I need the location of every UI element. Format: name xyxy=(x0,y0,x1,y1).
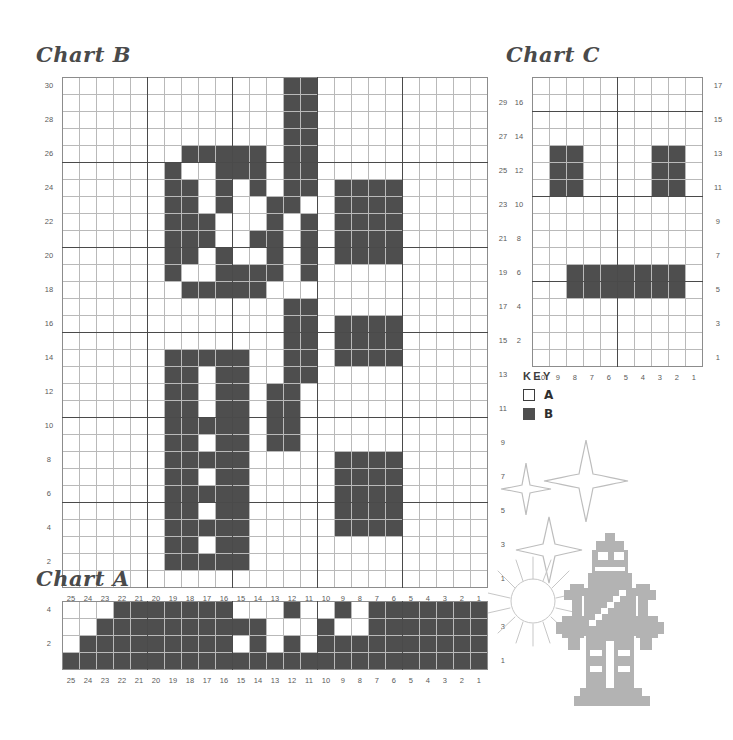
chart-cell xyxy=(550,95,566,111)
chart-cell xyxy=(114,231,130,247)
chart-cell xyxy=(114,316,130,332)
chart-cell xyxy=(352,452,368,468)
chart-cell xyxy=(131,129,147,145)
chart-cell xyxy=(199,282,215,298)
key-entry-b: B xyxy=(523,407,553,421)
chart-cell xyxy=(148,350,164,366)
chart-cell xyxy=(567,282,583,298)
chart-cell xyxy=(216,350,232,366)
chart-cell xyxy=(352,163,368,179)
chart-cell xyxy=(686,214,702,230)
chart-cell xyxy=(131,469,147,485)
chart-cell xyxy=(301,265,317,281)
chart-cell xyxy=(352,112,368,128)
chart-cell xyxy=(335,350,351,366)
chart-cell xyxy=(471,435,487,451)
chart-cell xyxy=(369,653,385,669)
chart-cell xyxy=(386,214,402,230)
chart-cell xyxy=(165,401,181,417)
chart-cell xyxy=(318,129,334,145)
chart-cell xyxy=(386,333,402,349)
chart-b-gridwrap: 2524232221201918171615141312111098765432… xyxy=(36,77,514,608)
chart-cell xyxy=(318,619,334,635)
chart-cell xyxy=(403,520,419,536)
chart-cell xyxy=(114,214,130,230)
chart-cell xyxy=(471,602,487,618)
chart-cell xyxy=(165,333,181,349)
chart-cell xyxy=(284,214,300,230)
chart-cell xyxy=(97,163,113,179)
chart-cell xyxy=(301,367,317,383)
chart-cell xyxy=(454,231,470,247)
chart-cell xyxy=(369,146,385,162)
chart-cell xyxy=(471,367,487,383)
chart-cell xyxy=(567,299,583,315)
chart-cell xyxy=(550,248,566,264)
chart-cell xyxy=(97,265,113,281)
chart-cell xyxy=(267,350,283,366)
chart-cell xyxy=(454,129,470,145)
chart-cell xyxy=(669,333,685,349)
chart-cell xyxy=(403,486,419,502)
y-axis-tick-label-right: 11 xyxy=(709,184,727,192)
chart-cell xyxy=(216,197,232,213)
chart-cell xyxy=(386,367,402,383)
chart-cell xyxy=(233,602,249,618)
chart-cell xyxy=(454,602,470,618)
chart-cell xyxy=(403,299,419,315)
chart-cell xyxy=(114,602,130,618)
chart-cell xyxy=(63,265,79,281)
chart-cell xyxy=(386,435,402,451)
chart-cell xyxy=(216,163,232,179)
chart-cell xyxy=(301,248,317,264)
chart-cell xyxy=(301,520,317,536)
chart-cell xyxy=(131,418,147,434)
chart-cell xyxy=(97,78,113,94)
chart-cell xyxy=(131,78,147,94)
chart-cell xyxy=(386,78,402,94)
x-axis-tick-label: 13 xyxy=(267,677,283,685)
chart-cell xyxy=(114,180,130,196)
chart-cell xyxy=(403,367,419,383)
chart-cell xyxy=(148,197,164,213)
chart-cell xyxy=(301,486,317,502)
chart-cell xyxy=(301,95,317,111)
chart-cell xyxy=(471,248,487,264)
chart-cell xyxy=(533,214,549,230)
chart-cell xyxy=(335,197,351,213)
y-axis-tick-label-right: 1 xyxy=(709,354,727,362)
chart-cell xyxy=(63,112,79,128)
chart-cell xyxy=(97,197,113,213)
chart-cell xyxy=(369,418,385,434)
chart-cell xyxy=(233,282,249,298)
chart-cell xyxy=(182,653,198,669)
chart-cell xyxy=(250,248,266,264)
chart-cell xyxy=(386,231,402,247)
chart-cell xyxy=(533,248,549,264)
chart-cell xyxy=(250,537,266,553)
chart-cell xyxy=(165,146,181,162)
chart-cell xyxy=(386,401,402,417)
chart-cell xyxy=(301,231,317,247)
chart-cell xyxy=(437,401,453,417)
chart-cell xyxy=(114,146,130,162)
chart-cell xyxy=(148,520,164,536)
chart-cell xyxy=(216,299,232,315)
chart-cell xyxy=(301,636,317,652)
chart-cell xyxy=(318,248,334,264)
chart-cell xyxy=(669,231,685,247)
chart-cell xyxy=(114,653,130,669)
chart-cell xyxy=(403,282,419,298)
chart-cell xyxy=(301,214,317,230)
chart-cell xyxy=(454,180,470,196)
chart-cell xyxy=(63,602,79,618)
chart-cell xyxy=(165,316,181,332)
y-axis-tick-label-right: 9 xyxy=(709,218,727,226)
x-axis-tick-label: 21 xyxy=(131,677,147,685)
chart-cell xyxy=(420,503,436,519)
chart-cell xyxy=(233,231,249,247)
chart-cell xyxy=(652,265,668,281)
chart-cell xyxy=(669,112,685,128)
x-axis-tick-label: 6 xyxy=(601,374,617,382)
chart-cell xyxy=(584,248,600,264)
